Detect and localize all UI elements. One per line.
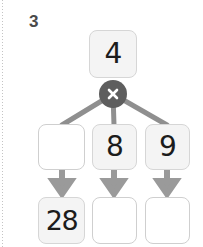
multiply-icon xyxy=(105,86,121,102)
arrow-head-1 xyxy=(53,181,71,194)
arrow-head-3 xyxy=(158,181,176,194)
middle-box-3-value: 9 xyxy=(159,133,176,161)
middle-box-2[interactable]: 8 xyxy=(92,124,137,170)
top-number-value: 4 xyxy=(105,40,122,68)
middle-box-3[interactable]: 9 xyxy=(145,124,190,170)
top-number-box[interactable]: 4 xyxy=(89,30,137,78)
bottom-box-1[interactable]: 28 xyxy=(38,197,85,244)
question-number: 3 xyxy=(29,12,38,32)
middle-box-1[interactable] xyxy=(38,124,85,170)
bottom-box-1-value: 28 xyxy=(46,207,77,234)
operator-node[interactable] xyxy=(99,80,127,108)
middle-box-2-value: 8 xyxy=(106,133,123,161)
arrow-head-2 xyxy=(105,181,123,194)
worksheet-item: 3 4 8 9 xyxy=(0,0,203,247)
bottom-box-2[interactable] xyxy=(92,197,137,244)
left-dotted-rule xyxy=(2,0,3,247)
bottom-box-3[interactable] xyxy=(145,197,190,244)
